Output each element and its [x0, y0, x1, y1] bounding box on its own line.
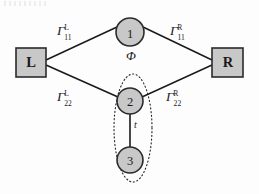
node-dot-3[interactable]: 3: [117, 147, 143, 173]
gamma-subscript: 22: [64, 99, 72, 108]
label-magnetic-flux: Φ: [126, 49, 136, 62]
gamma-superscript: L: [64, 89, 69, 98]
node-dot-3-label: 3: [127, 154, 133, 168]
gamma-subscript: 22: [174, 99, 182, 108]
node-dot-2-label: 2: [127, 95, 133, 109]
terminal-right-label: R: [223, 54, 234, 70]
node-dot-2[interactable]: 2: [117, 88, 143, 114]
label-gamma-left-lower: ΓL22: [57, 90, 77, 106]
gamma-superscript: R: [173, 89, 178, 98]
label-gamma-right-lower: ΓR22: [166, 90, 186, 106]
node-dot-1-label: 1: [127, 27, 133, 41]
terminal-left[interactable]: L: [16, 48, 46, 77]
terminal-right[interactable]: R: [212, 48, 243, 77]
diagram-figure: L R 1 2 3 ΓL11 ΓR11 ΓL22 ΓR22 Φ t: [0, 0, 259, 194]
gamma-superscript: R: [177, 23, 182, 32]
node-dot-1[interactable]: 1: [116, 18, 144, 46]
diagram-canvas: L R 1 2 3: [0, 0, 259, 194]
label-gamma-right-upper: ΓR11: [170, 24, 190, 40]
gamma-superscript: L: [64, 23, 69, 32]
gamma-subscript: 11: [64, 33, 71, 42]
label-gamma-left-upper: ΓL11: [57, 24, 77, 40]
gamma-subscript: 11: [178, 33, 185, 42]
label-hopping-t: t: [134, 120, 137, 130]
terminal-left-label: L: [26, 54, 36, 70]
